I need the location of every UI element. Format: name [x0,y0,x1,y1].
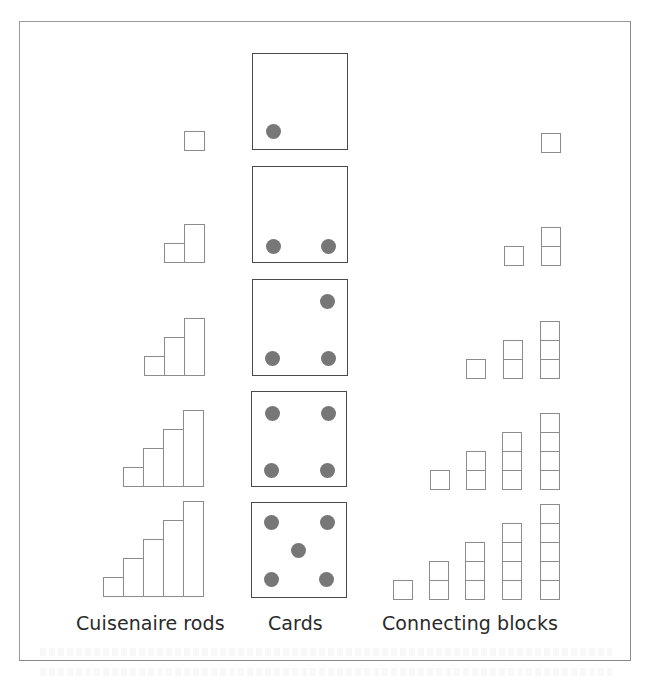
dot-card-2 [252,166,348,263]
connecting-block [430,470,450,490]
dot-card-4 [251,391,347,487]
cuisenaire-rod-2 [184,224,205,263]
cuisenaire-rod-3 [184,318,205,376]
connecting-block [540,504,560,524]
connecting-block [429,561,449,581]
dot-icon [266,124,281,139]
connecting-block [502,451,522,471]
cuisenaire-rod-4 [163,520,184,597]
connecting-block [541,246,561,266]
connecting-block [541,133,561,153]
label-cuisenaire-rods: Cuisenaire rods [76,609,225,637]
connecting-block [466,359,486,379]
dot-icon [319,572,334,587]
connecting-block [540,451,560,471]
connecting-block [540,359,560,379]
connecting-block [502,470,522,490]
dot-card-3 [252,279,348,376]
dot-icon [266,239,281,254]
connecting-block [541,227,561,247]
connecting-block [502,523,522,543]
connecting-block [540,542,560,562]
connecting-block [393,580,413,600]
connecting-block [465,542,485,562]
connecting-block [502,561,522,581]
connecting-block [540,413,560,433]
bleed-through-text-artifact [40,668,612,676]
bleed-through-text-artifact [40,648,612,656]
connecting-block [540,432,560,452]
cuisenaire-rod-2 [143,448,164,487]
dot-card-1 [252,53,348,150]
cuisenaire-rod-1 [184,131,205,151]
cuisenaire-rod-5 [183,501,204,597]
cuisenaire-rod-1 [123,467,144,487]
connecting-block [466,451,486,471]
dot-icon [320,515,335,530]
connecting-block [540,580,560,600]
manipulatives-figure: Cuisenaire rods Cards Connecting blocks [0,0,652,681]
dot-icon [321,406,336,421]
dot-icon [291,543,306,558]
cuisenaire-rod-3 [143,539,164,597]
dot-icon [320,294,335,309]
dot-icon [264,572,279,587]
dot-icon [265,406,280,421]
dot-icon [321,351,336,366]
connecting-block [502,432,522,452]
dot-icon [321,239,336,254]
connecting-block [540,321,560,341]
dot-icon [264,463,279,478]
connecting-block [502,542,522,562]
dot-card-5 [251,502,347,598]
dot-icon [265,351,280,366]
label-cards: Cards [268,609,323,637]
connecting-block [503,359,523,379]
connecting-block [540,523,560,543]
connecting-block [504,246,524,266]
connecting-block [540,470,560,490]
connecting-block [503,340,523,360]
cuisenaire-rod-2 [164,337,185,376]
cuisenaire-rod-1 [103,577,124,597]
connecting-block [465,580,485,600]
cuisenaire-rod-2 [123,558,144,597]
dot-icon [320,463,335,478]
connecting-block [502,580,522,600]
cuisenaire-rod-1 [164,243,185,263]
label-connecting-blocks: Connecting blocks [382,609,558,637]
cuisenaire-rod-3 [163,429,184,487]
connecting-block [540,561,560,581]
connecting-block [540,340,560,360]
connecting-block [465,561,485,581]
connecting-block [429,580,449,600]
cuisenaire-rod-4 [183,410,204,487]
cuisenaire-rod-1 [144,356,165,376]
connecting-block [466,470,486,490]
dot-icon [264,515,279,530]
